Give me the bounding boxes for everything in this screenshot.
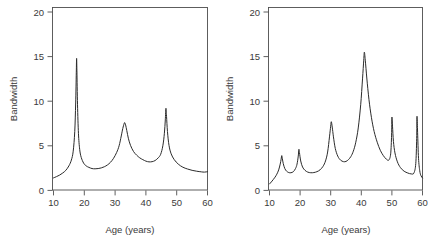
right-y-tick-labels: 20 15 10 5 0 [249,7,260,196]
left-x-ticklabel-40: 40 [141,197,152,208]
right-x-ticklabel-20: 20 [295,197,306,208]
left-x-ticklabel-10: 10 [48,197,59,208]
right-x-ticklabel-30: 30 [325,197,336,208]
left-y-ticklabel-0: 0 [39,185,44,196]
left-y-ticklabel-10: 10 [33,96,44,107]
right-plot-frame [269,8,423,191]
left-x-ticklabel-30: 30 [110,197,121,208]
panel-right: 20 15 10 5 0 10 20 30 40 50 60 [224,7,428,236]
right-x-axis-ticks [270,190,423,195]
right-x-ticklabel-10: 10 [264,197,275,208]
left-x-ticklabel-20: 20 [79,197,90,208]
left-y-axis-ticks [48,12,53,190]
left-y-tick-labels: 20 15 10 5 0 [33,7,44,196]
left-density-curve [54,58,208,178]
left-x-axis-ticks [54,190,208,195]
left-y-ticklabel-5: 5 [39,140,44,151]
left-x-axis-label: Age (years) [105,224,154,235]
two-panel-line-chart: 20 15 10 5 0 10 20 30 40 50 60 [0,0,432,248]
right-x-axis-label: Age (years) [321,224,370,235]
right-y-ticklabel-0: 0 [255,185,260,196]
left-x-tick-labels: 10 20 30 40 50 60 [48,197,213,208]
right-y-ticklabel-15: 15 [249,51,260,62]
left-x-ticklabel-60: 60 [202,197,213,208]
right-y-axis-label: Bandwidth [224,77,235,121]
right-y-axis-ticks [264,12,269,190]
right-y-ticklabel-20: 20 [249,7,260,18]
right-y-ticklabel-10: 10 [249,96,260,107]
left-x-ticklabel-50: 50 [171,197,182,208]
left-y-ticklabel-20: 20 [33,7,44,18]
left-y-ticklabel-15: 15 [33,51,44,62]
figure-container: 20 15 10 5 0 10 20 30 40 50 60 [0,0,432,248]
right-x-ticklabel-60: 60 [417,197,428,208]
left-y-axis-label: Bandwidth [8,77,19,121]
right-density-curve [270,52,423,184]
right-x-ticklabel-40: 40 [356,197,367,208]
right-x-ticklabel-50: 50 [387,197,398,208]
right-y-ticklabel-5: 5 [255,140,260,151]
panel-left: 20 15 10 5 0 10 20 30 40 50 60 [8,7,213,236]
right-x-tick-labels: 10 20 30 40 50 60 [264,197,428,208]
